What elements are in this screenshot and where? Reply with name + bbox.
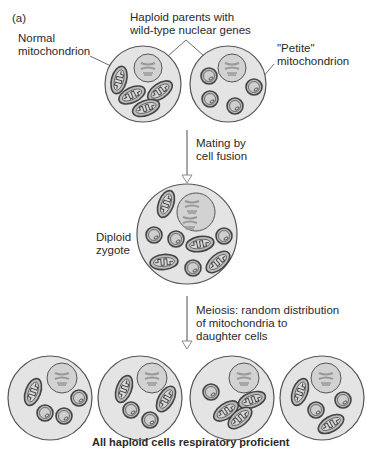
diagram-canvas — [0, 0, 374, 457]
label-petite-mitochondrion: "Petite" mitochondrion — [277, 42, 349, 68]
daughter-cell-4 — [280, 356, 364, 440]
label-line: Normal — [18, 32, 90, 45]
arrow-meiosis — [182, 296, 192, 349]
label-line: daughter cells — [196, 330, 339, 343]
label-line: Meiosis: random distribution — [196, 304, 339, 317]
daughter-cell-1 — [8, 356, 92, 440]
label-line: of mitochondria to — [196, 317, 339, 330]
cell-haploid-petite — [190, 46, 266, 122]
label-line: mitochondrion — [277, 55, 349, 68]
label-line: mitochondrion — [18, 45, 90, 58]
label-line: zygote — [96, 244, 131, 257]
label-line: cell fusion — [196, 150, 247, 163]
label-normal-mitochondrion: Normal mitochondrion — [18, 32, 90, 58]
label-meiosis: Meiosis: random distribution of mitochon… — [196, 304, 339, 343]
label-line: Haploid parents with — [130, 11, 251, 24]
label-mating: Mating by cell fusion — [196, 137, 247, 163]
daughter-cell-3 — [190, 356, 274, 440]
daughter-cell-2 — [98, 356, 182, 440]
label-haploid-parents: Haploid parents with wild-type nuclear g… — [130, 11, 251, 37]
label-line: "Petite" — [277, 42, 349, 55]
arrow-mating — [182, 130, 192, 183]
label-conclusion: All haploid cells respiratory proficient — [92, 436, 289, 449]
cell-diploid-zygote — [137, 184, 237, 284]
label-diploid-zygote: Diploid zygote — [96, 231, 131, 257]
label-line: wild-type nuclear genes — [130, 24, 251, 37]
panel-label: (a) — [12, 12, 26, 25]
label-line: Diploid — [96, 231, 131, 244]
cell-haploid-normal — [105, 46, 181, 122]
label-line: Mating by — [196, 137, 247, 150]
